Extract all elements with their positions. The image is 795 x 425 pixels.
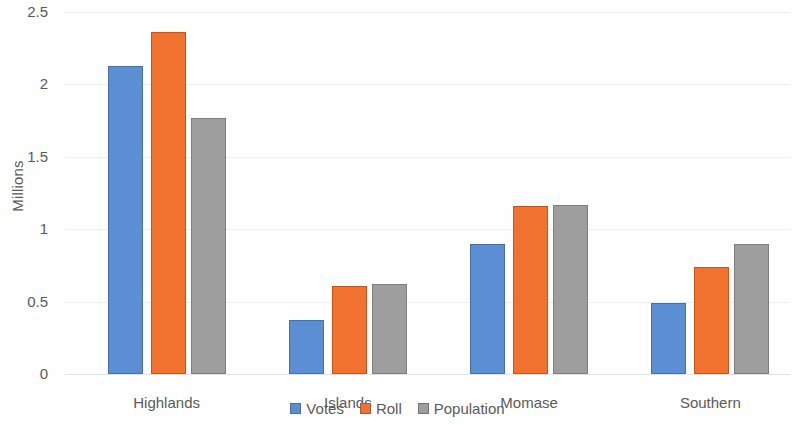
x-axis-line xyxy=(65,374,790,375)
bar-votes-islands[interactable] xyxy=(289,320,324,374)
bar-population-islands[interactable] xyxy=(372,284,407,374)
plot-area: 00.511.522.5HighlandsIslandsMomaseSouthe… xyxy=(65,12,790,374)
bar-votes-momase[interactable] xyxy=(470,244,505,374)
y-axis-tick-label: 2.5 xyxy=(4,3,48,20)
bar-population-southern[interactable] xyxy=(734,244,769,374)
legend-item-votes[interactable]: Votes xyxy=(290,400,344,417)
chart-legend: VotesRollPopulation xyxy=(0,400,795,417)
bar-group xyxy=(651,12,769,374)
bar-group xyxy=(470,12,588,374)
legend-item-roll[interactable]: Roll xyxy=(360,400,402,417)
legend-item-population[interactable]: Population xyxy=(418,400,505,417)
bar-votes-highlands[interactable] xyxy=(108,66,143,374)
legend-label: Population xyxy=(434,400,505,417)
bar-roll-momase[interactable] xyxy=(513,206,548,374)
y-axis-tick-label: 0.5 xyxy=(4,293,48,310)
y-axis-tick-label: 2 xyxy=(4,75,48,92)
bar-group xyxy=(108,12,226,374)
y-axis-tick-label: 0 xyxy=(4,365,48,382)
bar-votes-southern[interactable] xyxy=(651,303,686,374)
legend-swatch-icon xyxy=(418,403,429,414)
bar-population-highlands[interactable] xyxy=(191,118,226,374)
legend-label: Votes xyxy=(306,400,344,417)
legend-swatch-icon xyxy=(290,403,301,414)
bar-roll-highlands[interactable] xyxy=(151,32,186,374)
legend-swatch-icon xyxy=(360,403,371,414)
bar-population-momase[interactable] xyxy=(553,205,588,374)
y-axis-tick-label: 1.5 xyxy=(4,148,48,165)
bar-roll-islands[interactable] xyxy=(332,286,367,374)
bar-roll-southern[interactable] xyxy=(694,267,729,374)
bar-chart: Millions 00.511.522.5HighlandsIslandsMom… xyxy=(0,0,795,425)
bar-group xyxy=(289,12,407,374)
y-axis-tick-label: 1 xyxy=(4,220,48,237)
legend-label: Roll xyxy=(376,400,402,417)
